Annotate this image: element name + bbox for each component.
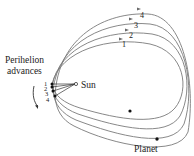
advance-direction-arrow-icon — [33, 86, 38, 107]
perihelion-advances-label-line1: Perihelion — [5, 55, 44, 65]
perihelion-advances-label-line2: advances — [7, 66, 42, 76]
orbit-1 — [52, 42, 183, 120]
sun-icon — [74, 82, 77, 85]
orbit-label-1: 1 — [122, 40, 126, 49]
orbits — [52, 14, 190, 147]
planet-previous-dot — [128, 109, 131, 112]
orbit-label-3: 3 — [134, 21, 138, 30]
orbit-label-2: 2 — [129, 31, 133, 40]
arrow-icon — [129, 18, 133, 21]
perihelion-point-1 — [51, 83, 54, 86]
perihelion-labels: 1 2 3 4 — [44, 80, 50, 103]
orbit-label-4: 4 — [140, 11, 144, 20]
perihelion-point-4 — [54, 95, 57, 98]
planet-label: Planet — [134, 144, 158, 154]
planet-icon — [155, 137, 158, 140]
perihelion-precession-diagram: 1 2 3 4 1 2 3 4 Sun Perihelion advances … — [0, 0, 194, 156]
perihelion-point-2 — [51, 86, 54, 89]
sun-label: Sun — [81, 80, 96, 90]
perihelion-label-4: 4 — [46, 96, 50, 103]
perihelion-point-3 — [52, 90, 55, 93]
arrowhead-icon — [35, 105, 38, 109]
